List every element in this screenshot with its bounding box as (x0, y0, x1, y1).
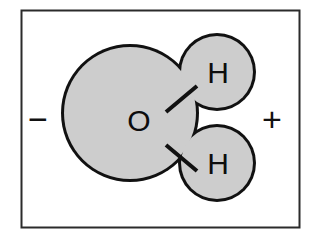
water-molecule-figure: O H H − + (0, 0, 316, 234)
hydrogen-bottom-atom-label: H (207, 147, 229, 180)
oxygen-atom-label: O (127, 104, 150, 137)
molecule-diagram-canvas: O H H − + (0, 0, 316, 234)
hydrogen-top-atom-label: H (207, 56, 229, 89)
positive-charge-label: + (262, 100, 282, 138)
negative-charge-label: − (28, 100, 48, 138)
